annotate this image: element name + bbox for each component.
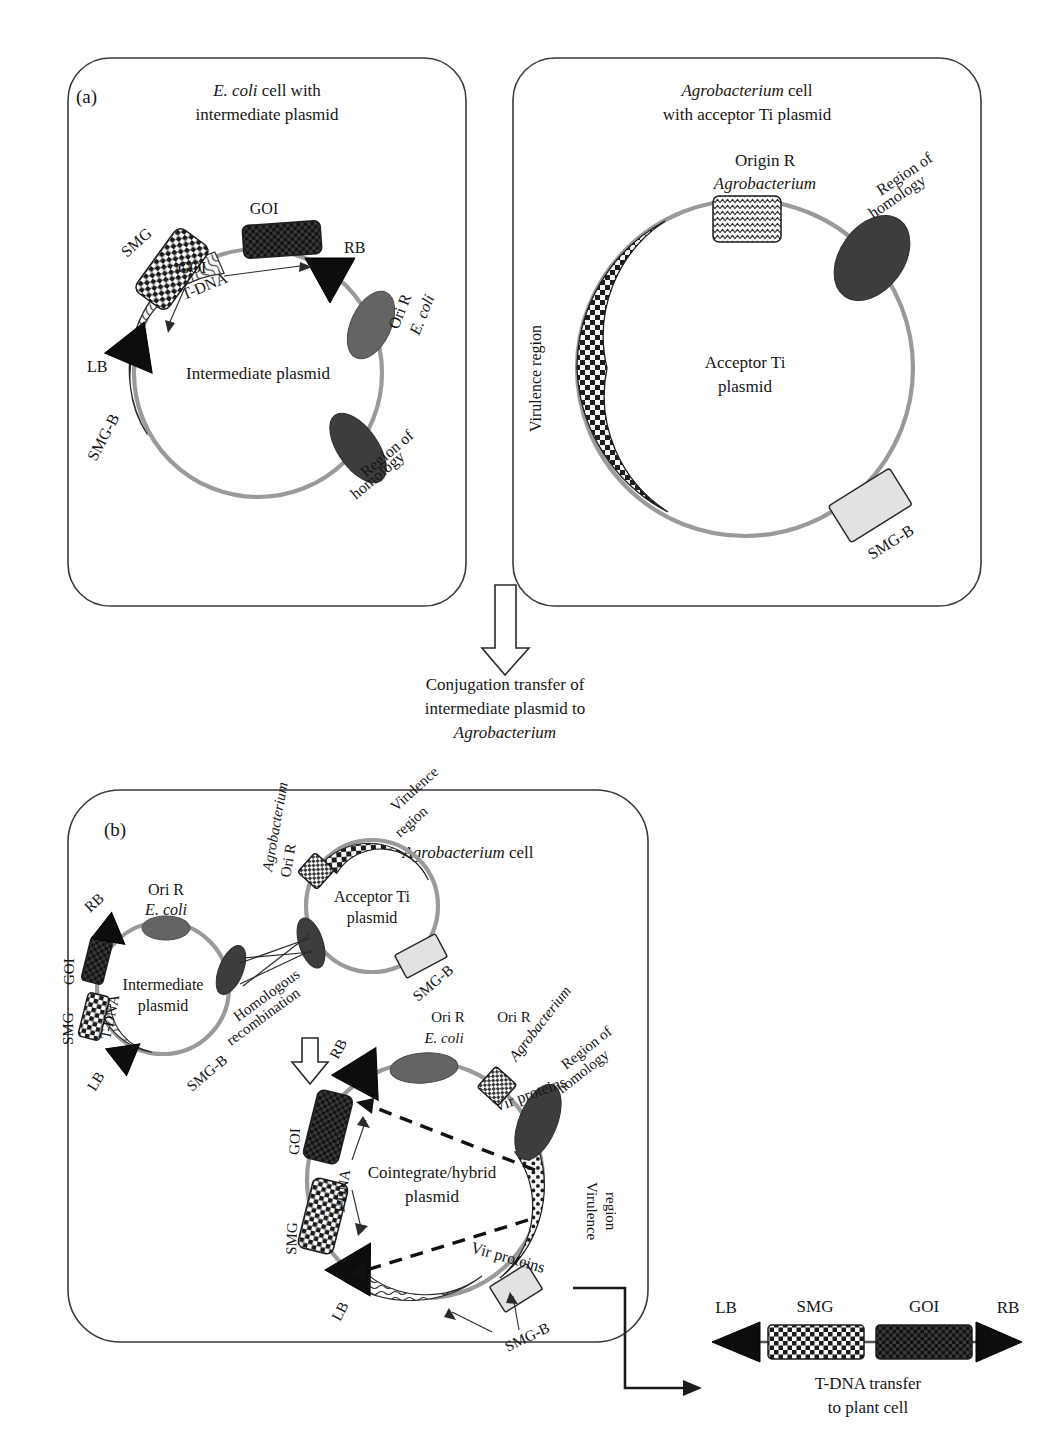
tdna-transfer-construct: LB SMG GOI RB T-DNA transfer to plant ce… xyxy=(712,1297,1022,1417)
origin-r-label-a: Origin R xyxy=(735,151,796,170)
connector-arrowhead xyxy=(683,1380,702,1396)
cointegrate-name-l2: plasmid xyxy=(405,1187,459,1206)
virulence-l2-b-co: region xyxy=(603,1192,619,1231)
ori-r-species-b-int: E. coli xyxy=(144,901,187,918)
smg-label-b-int: SMG xyxy=(60,1012,76,1045)
acceptor-ti-name-l2-b: plasmid xyxy=(347,909,398,927)
intermediate-plasmid-name-l1-b: Intermediate xyxy=(123,976,204,993)
cropped-page-header xyxy=(28,0,32,15)
agro-cell-title-line2: with acceptor Ti plasmid xyxy=(663,105,832,124)
lb-triangle-transfer xyxy=(712,1322,760,1362)
smg-box-transfer xyxy=(768,1325,864,1359)
origin-r-agro-box-a xyxy=(713,196,781,242)
tdna-transfer-caption-l1: T-DNA transfer xyxy=(815,1374,922,1393)
ori-r-label-b-int: Ori R xyxy=(148,881,184,898)
goi-inner-label-a: GOI xyxy=(178,259,206,276)
panel-b-tag: (b) xyxy=(104,819,126,841)
cointegrate-name-l1: Cointegrate/hybrid xyxy=(368,1163,497,1182)
figure-canvas: (a) E. coli cell with intermediate plasm… xyxy=(0,0,1054,1436)
conjugation-transition: Conjugation transfer of intermediate pla… xyxy=(425,585,586,742)
conjugation-arrow xyxy=(482,585,529,675)
intermediate-plasmid-name-a: Intermediate plasmid xyxy=(186,364,330,383)
origin-r-species-a: Agrobacterium xyxy=(713,174,816,193)
goi-label-b-int: GOI xyxy=(61,958,77,985)
ecoli-cell-title-line1: E. coli cell with xyxy=(212,81,321,100)
virulence-l1-b-co: Virulence xyxy=(584,1182,600,1241)
goi-box-a xyxy=(242,220,322,258)
agro-title-rest: cell xyxy=(784,81,813,100)
rb-label-transfer: RB xyxy=(997,1298,1020,1317)
goi-box-transfer xyxy=(876,1325,972,1359)
acceptor-ti-name-l1-b: Acceptor Ti xyxy=(334,888,411,906)
intermediate-plasmid-name-l2-b: plasmid xyxy=(138,997,189,1015)
agro-title-italic: Agrobacterium xyxy=(680,81,783,100)
ori-r-ecoli-l1-b-co: Ori R xyxy=(431,1009,465,1025)
goi-label-a: GOI xyxy=(250,200,278,217)
panel-a-ecoli-cell: (a) E. coli cell with intermediate plasm… xyxy=(68,58,466,606)
virulence-region-label-a: Virulence region xyxy=(527,325,545,432)
lb-label-a: LB xyxy=(87,358,107,375)
panel-a-agrobacterium-cell: Agrobacterium cell with acceptor Ti plas… xyxy=(513,58,981,606)
ecoli-cell-outline xyxy=(68,58,466,606)
ori-r-agro-l1-b-co: Ori R xyxy=(497,1009,531,1025)
ecoli-title-rest: cell with xyxy=(258,81,322,100)
acceptor-ti-name-l2-a: plasmid xyxy=(718,377,772,396)
ori-r-ecoli-l2-b-co: E. coli xyxy=(423,1030,463,1046)
conjugation-caption-l3: Agrobacterium xyxy=(453,723,556,742)
ecoli-title-italic: E. coli xyxy=(212,81,258,100)
lb-label-transfer: LB xyxy=(715,1298,737,1317)
conjugation-caption-l2: intermediate plasmid to xyxy=(425,699,586,718)
panel-b-agrobacterium-cell: (b) Agrobacterium cell RB GOI SMG T-DNA … xyxy=(60,763,648,1355)
ori-r-ecoli-ellipse-b xyxy=(142,916,190,940)
ecoli-cell-title-line2: intermediate plasmid xyxy=(195,105,339,124)
panel-b-title-rest: cell xyxy=(505,843,534,862)
panel-a-tag: (a) xyxy=(76,86,97,108)
rb-triangle-transfer xyxy=(976,1322,1022,1362)
conjugation-caption-l1: Conjugation transfer of xyxy=(426,675,585,694)
tdna-transfer-caption-l2: to plant cell xyxy=(828,1398,909,1417)
goi-label-transfer: GOI xyxy=(909,1297,940,1316)
agro-cell-title-line1: Agrobacterium cell xyxy=(680,81,812,100)
acceptor-ti-name-l1-a: Acceptor Ti xyxy=(705,353,786,372)
smg-label-transfer: SMG xyxy=(797,1297,834,1316)
rb-label-a: RB xyxy=(344,239,365,256)
smg-label-b-co: SMG xyxy=(283,1222,300,1255)
goi-label-b-co: GOI xyxy=(286,1128,303,1155)
